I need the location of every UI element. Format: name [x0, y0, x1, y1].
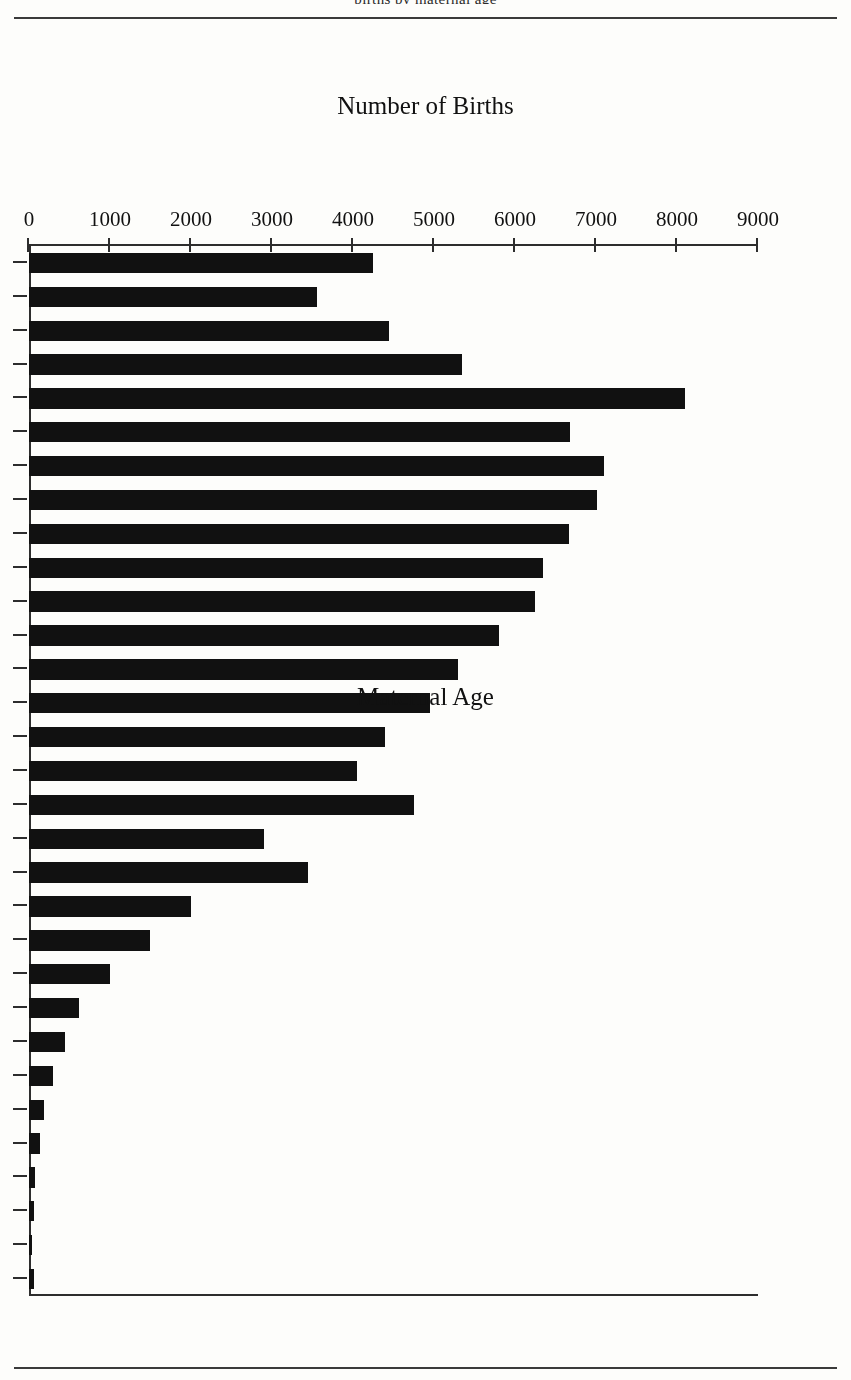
- value-tick-label-6000: 6000: [475, 207, 555, 232]
- bar-age-28: [29, 558, 543, 578]
- category-tick-24: [13, 430, 27, 432]
- category-tick-43: [13, 1074, 27, 1076]
- value-tick-7000: [594, 238, 596, 252]
- value-tick-3000: [270, 238, 272, 252]
- category-tick-47: [13, 1209, 27, 1211]
- category-tick-23: [13, 396, 27, 398]
- bar-age-36: [29, 829, 264, 849]
- category-tick-19: [13, 261, 27, 263]
- category-tick-label-25: 25: [0, 454, 13, 479]
- value-tick-label-0: 0: [0, 207, 69, 232]
- bar-age-35: [29, 795, 414, 815]
- value-axis-title: Number of Births: [0, 92, 851, 120]
- value-tick-2000: [189, 238, 191, 252]
- category-tick-48: [13, 1243, 27, 1245]
- bar-age-33: [29, 727, 385, 747]
- category-tick-20: [13, 295, 27, 297]
- value-tick-label-2000: 2000: [151, 207, 231, 232]
- category-tick-45: [13, 1142, 27, 1144]
- category-tick-label-37: 37: [0, 861, 13, 886]
- bar-age-45: [29, 1133, 40, 1153]
- category-tick-49: [13, 1277, 27, 1279]
- category-tick-label-49: 49: [0, 1267, 13, 1292]
- value-tick-label-4000: 4000: [313, 207, 393, 232]
- value-tick-label-7000: 7000: [556, 207, 636, 232]
- bar-chart: 9000800070006000500040003000200010000 19…: [0, 26, 851, 1356]
- value-tick-label-3000: 3000: [232, 207, 312, 232]
- value-tick-label-1000: 1000: [70, 207, 150, 232]
- bar-age-41: [29, 998, 79, 1018]
- bar-age-22: [29, 354, 462, 374]
- category-tick-31: [13, 667, 27, 669]
- bar-age-21: [29, 321, 389, 341]
- category-tick-21: [13, 329, 27, 331]
- category-tick-41: [13, 1006, 27, 1008]
- category-tick-label-45: 45: [0, 1132, 13, 1157]
- category-tick-28: [13, 566, 27, 568]
- bar-age-26: [29, 490, 597, 510]
- running-head: births by maternal age: [0, 0, 851, 4]
- bar-age-23: [29, 388, 685, 408]
- category-tick-35: [13, 803, 27, 805]
- category-tick-27: [13, 532, 27, 534]
- bar-age-25: [29, 456, 604, 476]
- bar-age-31: [29, 659, 458, 679]
- plot-border-top: [29, 1294, 758, 1296]
- bar-age-30: [29, 625, 499, 645]
- value-axis-line: [27, 244, 758, 246]
- category-tick-label-29: 29: [0, 590, 13, 615]
- category-tick-label-35: 35: [0, 793, 13, 818]
- value-tick-label-9000: 9000: [718, 207, 798, 232]
- value-tick-0: [27, 238, 29, 252]
- bar-age-37: [29, 862, 308, 882]
- bar-age-20: [29, 287, 317, 307]
- bar-age-29: [29, 592, 535, 612]
- bar-age-42: [29, 1032, 65, 1052]
- category-tick-39: [13, 938, 27, 940]
- category-tick-label-23: 23: [0, 386, 13, 411]
- category-tick-40: [13, 972, 27, 974]
- value-tick-4000: [351, 238, 353, 252]
- plot-area: [29, 246, 758, 1296]
- category-tick-25: [13, 464, 27, 466]
- category-tick-30: [13, 634, 27, 636]
- category-tick-label-31: 31: [0, 657, 13, 682]
- value-tick-9000: [756, 238, 758, 252]
- figure-rotated-180: 9000800070006000500040003000200010000 19…: [0, 26, 851, 1356]
- category-tick-label-41: 41: [0, 996, 13, 1021]
- bar-age-24: [29, 422, 570, 442]
- category-tick-label-19: 19: [0, 251, 13, 276]
- value-tick-8000: [675, 238, 677, 252]
- category-tick-26: [13, 498, 27, 500]
- bar-age-27: [29, 524, 569, 544]
- value-tick-6000: [513, 238, 515, 252]
- page-rule-bottom: [14, 1367, 837, 1369]
- category-tick-33: [13, 735, 27, 737]
- bar-age-40: [29, 964, 110, 984]
- category-tick-22: [13, 363, 27, 365]
- value-tick-1000: [108, 238, 110, 252]
- bar-age-47: [29, 1201, 34, 1221]
- category-tick-label-43: 43: [0, 1064, 13, 1089]
- category-tick-34: [13, 769, 27, 771]
- category-tick-37: [13, 871, 27, 873]
- bar-age-49: [29, 1269, 34, 1289]
- value-tick-label-5000: 5000: [394, 207, 474, 232]
- category-tick-label-27: 27: [0, 522, 13, 547]
- bar-age-34: [29, 761, 357, 781]
- bar-age-39: [29, 930, 151, 950]
- category-tick-label-47: 47: [0, 1199, 13, 1224]
- category-tick-46: [13, 1175, 27, 1177]
- category-tick-label-39: 39: [0, 928, 13, 953]
- page-rule-top: [14, 17, 837, 19]
- bar-age-46: [29, 1167, 35, 1187]
- value-tick-label-8000: 8000: [637, 207, 717, 232]
- category-tick-38: [13, 904, 27, 906]
- bar-age-48: [29, 1235, 32, 1255]
- category-tick-label-21: 21: [0, 319, 13, 344]
- bar-age-44: [29, 1100, 44, 1120]
- category-tick-44: [13, 1108, 27, 1110]
- category-axis-title: Maternal Age: [0, 683, 851, 711]
- category-tick-29: [13, 600, 27, 602]
- bar-age-43: [29, 1066, 53, 1086]
